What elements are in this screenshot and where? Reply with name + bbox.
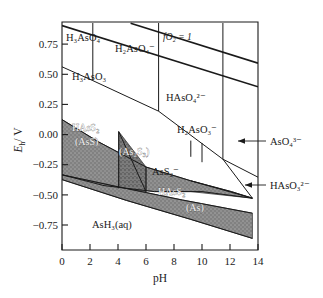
y-axis-title-symbol: E (12, 145, 24, 153)
y-ticklabel-6: −0.75 (33, 219, 59, 231)
x-ticklabel-5: 10 (197, 255, 209, 267)
label-haso4-2minus: HAsO₄²⁻ (166, 92, 206, 103)
label-hass2-minus: HAsS₂⁻ (158, 186, 190, 197)
label-ash3-aq: AsH₃(aq) (92, 219, 132, 231)
callout-haso3-2minus: HAsO₃²⁻ (245, 180, 310, 191)
label-hass2: HAsS₂ (72, 122, 99, 133)
y-axis-title-unit: / V (12, 127, 24, 142)
label-ass2-minus: AsS₂⁻ (152, 166, 179, 177)
haso3-callout-arrowhead (245, 182, 252, 188)
y-ticklabel-0: 0.75 (39, 38, 59, 50)
x-ticklabel-1: 2 (87, 255, 93, 267)
x-axis-ticks (62, 244, 258, 250)
aso4-callout-arrowhead (238, 138, 245, 144)
y-axis-ticks (62, 44, 68, 225)
x-ticklabel-0: 0 (59, 255, 65, 267)
svg-text:Eh/ V: Eh/ V (12, 127, 27, 154)
pourbaix-figure: 0.75 0.50 0.25 0.00 −0.25 −0.50 −0.75 0 … (0, 0, 323, 298)
x-axis-tick-labels: 0 2 4 6 8 10 12 14 (59, 255, 264, 267)
label-ass: (AsS) (75, 136, 98, 148)
callout-annotations: AsO₄³⁻ HAsO₃²⁻ (238, 136, 310, 191)
y-ticklabel-2: 0.25 (39, 98, 59, 110)
y-ticklabel-3: 0.00 (39, 128, 59, 140)
label-fo2-equals-1: fO₂ = 1 (163, 32, 192, 42)
x-ticklabel-7: 14 (253, 255, 265, 267)
x-ticklabel-2: 4 (115, 255, 121, 267)
label-native-as: (As) (186, 202, 204, 214)
callout-label-aso4-3minus: AsO₄³⁻ (270, 136, 302, 147)
y-axis-title: Eh/ V (12, 127, 27, 154)
label-h2aso4-minus: H₂AsO₄⁻ (115, 43, 155, 54)
x-axis-title: pH (153, 272, 167, 285)
pourbaix-diagram-canvas: 0.75 0.50 0.25 0.00 −0.25 −0.50 −0.75 0 … (0, 0, 323, 298)
label-h3aso4: H₃AsO₄ (66, 32, 100, 43)
y-axis-tick-labels: 0.75 0.50 0.25 0.00 −0.25 −0.50 −0.75 (33, 38, 59, 231)
x-ticklabel-6: 12 (225, 255, 236, 267)
y-ticklabel-1: 0.50 (39, 68, 59, 80)
x-ticklabel-3: 6 (143, 255, 149, 267)
label-h2aso3-minus: H₂AsO₃⁻ (177, 124, 217, 135)
callout-label-haso3-2minus: HAsO₃²⁻ (270, 180, 310, 191)
callout-aso4-3minus: AsO₄³⁻ (238, 136, 302, 147)
label-h3aso3: H₃AsO₃ (72, 71, 106, 82)
y-ticklabel-4: −0.25 (33, 158, 59, 170)
y-ticklabel-5: −0.50 (33, 189, 59, 201)
x-ticklabel-4: 8 (171, 255, 177, 267)
label-as2s3: (As₂S₃) (119, 146, 149, 158)
